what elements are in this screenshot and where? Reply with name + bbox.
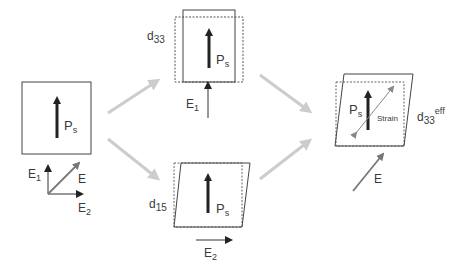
e1-label: E1 bbox=[28, 167, 41, 183]
d15-path: Ps d15 E2 bbox=[149, 163, 250, 262]
initial-state: Ps E1 E E2 bbox=[22, 82, 91, 217]
strain-label: Strain bbox=[377, 114, 398, 123]
flow-arrow-from-d15 bbox=[260, 141, 309, 179]
flow-arrow-to-d33 bbox=[108, 81, 157, 113]
ps-label: Ps bbox=[216, 52, 230, 69]
flow-arrow-from-d33 bbox=[260, 75, 309, 111]
d33-path: Ps d33 E1 bbox=[147, 10, 243, 118]
e-label: E bbox=[374, 172, 382, 186]
ps-label: Ps bbox=[349, 102, 363, 119]
sheared-cell bbox=[174, 163, 250, 227]
d15-label: d15 bbox=[149, 197, 167, 213]
e-field-arrow bbox=[48, 163, 79, 194]
ps-label: Ps bbox=[64, 118, 78, 135]
ps-label: Ps bbox=[216, 201, 230, 218]
flow-arrow-to-d15 bbox=[108, 139, 157, 178]
e1-label: E1 bbox=[186, 97, 199, 113]
d33-label: d33 bbox=[147, 29, 165, 45]
e2-label: E2 bbox=[204, 246, 217, 262]
result-state: Ps Strain d33eff E bbox=[335, 74, 445, 191]
e-label: E bbox=[78, 172, 86, 186]
e2-label: E2 bbox=[78, 201, 91, 217]
d33eff-label: d33eff bbox=[417, 106, 445, 126]
piezo-diagram: Ps E1 E E2 Ps d33 E1 Ps d15 E2 bbox=[0, 0, 472, 269]
